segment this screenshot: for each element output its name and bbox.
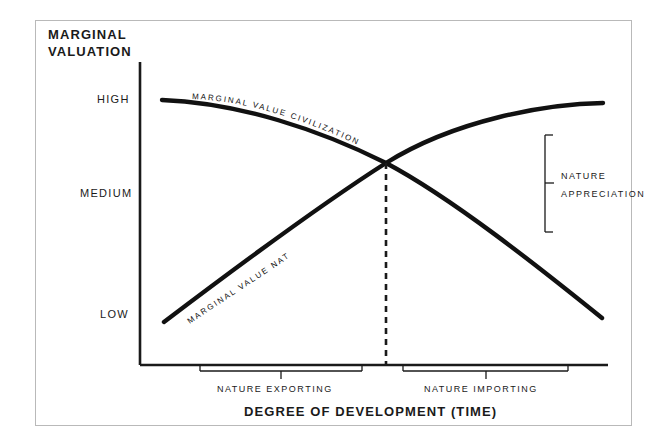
- y-tick-label-low: LOW: [100, 309, 129, 321]
- chart-figure: MARGINAL VALUE CIVILIZATION MARGINAL VAL…: [0, 0, 665, 446]
- nature-appreciation-label-line2: APPRECIATION: [561, 188, 645, 202]
- chart-plot-area: MARGINAL VALUE CIVILIZATION MARGINAL VAL…: [0, 0, 665, 446]
- nature-importing-label: NATURE IMPORTING: [424, 385, 538, 394]
- y-tick-label-medium: MEDIUM: [80, 188, 132, 200]
- x-axis-title: DEGREE OF DEVELOPMENT (TIME): [244, 405, 497, 419]
- nature-appreciation-label-line1: NATURE: [561, 170, 606, 184]
- y-tick-label-high: HIGH: [97, 94, 130, 106]
- y-axis-title-line2: VALUATION: [48, 45, 132, 59]
- curve-marginal-value-civilization: [162, 100, 602, 318]
- nature-appreciation-bracket: [545, 135, 554, 232]
- nature-exporting-label: NATURE EXPORTING: [217, 385, 333, 394]
- y-axis-title-line1: MARGINAL: [48, 28, 127, 42]
- curve-label-nature: MARGINAL VALUE NATURE: [0, 0, 292, 326]
